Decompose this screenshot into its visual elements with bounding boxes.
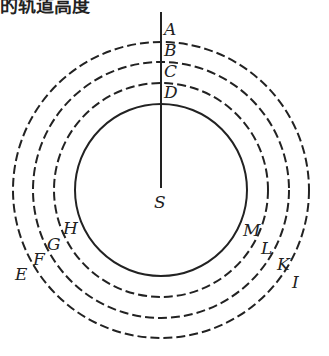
label-B: B bbox=[163, 40, 177, 60]
label-C: C bbox=[164, 61, 177, 81]
label-A: A bbox=[162, 19, 176, 39]
label-S: S bbox=[154, 192, 166, 212]
label-M: M bbox=[242, 220, 261, 240]
label-D: D bbox=[163, 82, 178, 102]
label-H: H bbox=[62, 218, 79, 238]
label-G: G bbox=[47, 234, 61, 254]
label-I: I bbox=[291, 272, 299, 292]
label-L: L bbox=[260, 238, 272, 258]
concentric-orbits-diagram: A B C D S E F G H M L K I bbox=[0, 0, 329, 356]
label-K: K bbox=[276, 254, 291, 274]
label-F: F bbox=[32, 249, 46, 269]
label-E: E bbox=[14, 264, 28, 284]
